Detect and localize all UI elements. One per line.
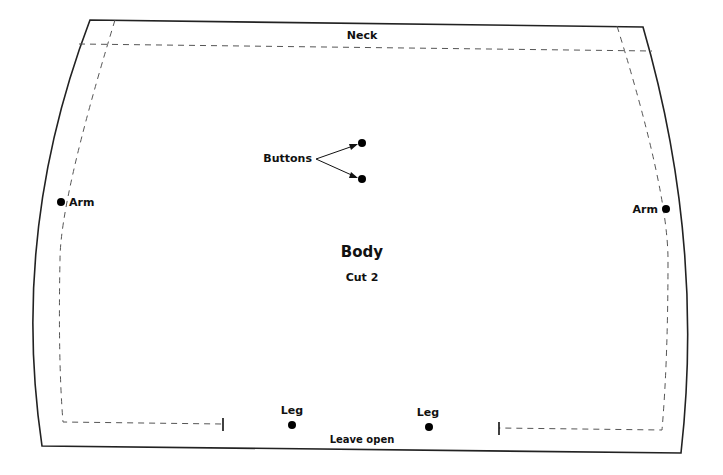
left-seam-line	[59, 20, 222, 424]
leg-label-right: Leg	[417, 406, 439, 419]
neck-label: Neck	[347, 29, 378, 42]
arm-label-left: Arm	[69, 196, 94, 209]
arm-marker-right	[662, 205, 670, 213]
pattern-subtitle: Cut 2	[346, 271, 379, 284]
leg-marker-left	[288, 421, 296, 429]
leg-label-left: Leg	[281, 404, 303, 417]
button-arrow-top	[316, 145, 356, 159]
leave-open-label: Leave open	[330, 434, 395, 445]
button-marker-top	[358, 139, 366, 147]
arrowhead-icon	[349, 144, 358, 150]
button-marker-bottom	[358, 175, 366, 183]
sewing-pattern-body-piece: Neck Buttons Arm Arm Body Cut 2 Leg Leg …	[0, 0, 723, 475]
button-arrow-bottom	[316, 159, 356, 177]
neck-seam-line	[79, 44, 652, 51]
buttons-label: Buttons	[263, 152, 312, 165]
arm-label-right: Arm	[633, 203, 658, 216]
arm-marker-left	[57, 198, 65, 206]
cut-outline	[33, 20, 688, 453]
leg-marker-right	[425, 423, 433, 431]
pattern-title: Body	[341, 243, 383, 261]
arrowhead-icon	[349, 172, 358, 178]
right-seam-line	[499, 26, 668, 430]
